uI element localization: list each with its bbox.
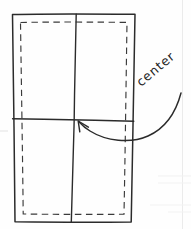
sketch-canvas: center — [0, 0, 191, 229]
center-pointer-arrow — [79, 93, 181, 141]
vertical-center-line — [71, 14, 76, 222]
page-artifacts — [0, 0, 191, 229]
horizontal-center-line — [13, 119, 134, 121]
hand-drawn-diagram — [0, 0, 191, 229]
